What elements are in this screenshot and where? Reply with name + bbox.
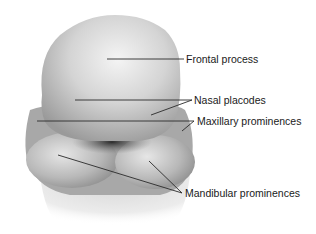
- label-frontal-process: Frontal process: [186, 53, 258, 65]
- label-maxillary-prominences: Maxillary prominences: [197, 115, 301, 127]
- frontal-process-shape: [41, 15, 180, 141]
- label-mandibular-prominences: Mandibular prominences: [185, 187, 300, 199]
- label-nasal-placodes: Nasal placodes: [194, 94, 266, 106]
